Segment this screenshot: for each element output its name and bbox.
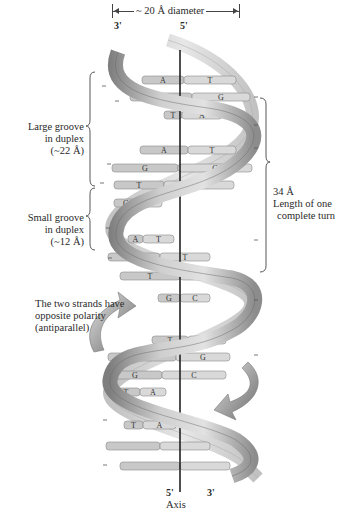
small-groove-line3: (~12 Å) (8, 236, 84, 248)
base-letter-right: T (183, 253, 188, 262)
base-letter-right: T (210, 146, 215, 155)
base-letter-left: G (166, 294, 172, 303)
polarity-note: The two strands have opposite polarity (… (35, 298, 125, 334)
polarity-note-line2: opposite polarity (35, 310, 125, 322)
base-letter-right: C (191, 371, 196, 380)
large-groove-label: Large groove in duplex (~22 Å) (8, 121, 84, 157)
base-letter-left: T (171, 111, 176, 120)
polarity-note-line1: The two strands have (35, 298, 125, 310)
base-letter-right: C (192, 294, 197, 303)
base-letter-left: A (160, 76, 166, 85)
base-letter-left: T (148, 272, 153, 281)
base-pair: AT (142, 76, 236, 85)
base-letter-left: T (131, 421, 136, 430)
strand-end-bottom-right: 3' (207, 487, 215, 499)
turn-length-brace (260, 98, 270, 272)
base-letter-right: T (208, 76, 213, 85)
base-pair: AT (140, 146, 236, 155)
arrow-right-icon (233, 8, 238, 14)
turn-length-line3: complete turn (273, 210, 335, 222)
small-groove-line2: in duplex (8, 224, 84, 236)
small-groove-label: Small groove in duplex (~12 Å) (8, 212, 84, 248)
groove-braces (86, 72, 95, 250)
base-letter-left: G (142, 164, 148, 173)
base-pair: GC (158, 294, 210, 303)
dna-helix-diagram: ATCGTAATGCTAGCATATTAGCTACGGCTATA (0, 0, 352, 529)
base-letter-left: G (132, 371, 138, 380)
arrow-left-icon (114, 8, 119, 14)
base-letter-right: A (150, 388, 156, 397)
turn-length-label: 34 Å Length of one complete turn (273, 186, 335, 222)
strand-end-top-right: 5' (180, 20, 188, 32)
axis-label: Axis (166, 499, 186, 511)
base-letter-left: T (137, 181, 142, 190)
polarity-note-line3: (antiparallel) (35, 322, 125, 334)
strand-end-bottom-left: 5' (166, 487, 174, 499)
base-letter-left: A (133, 235, 139, 244)
turn-length-line1: 34 Å (273, 186, 335, 198)
base-letter-right: T (156, 235, 161, 244)
base-letter-left: A (161, 146, 167, 155)
base-letter-right: G (218, 93, 224, 102)
strand-end-top-left: 3' (114, 20, 122, 32)
large-groove-line3: (~22 Å) (8, 145, 84, 157)
double-helix-illustration: ATCGTAATGCTAGCATATTAGCTACGGCTATA (0, 0, 352, 529)
diameter-indicator: ~ 20 Å diameter (112, 4, 240, 18)
turn-length-line2: Length of one (273, 198, 335, 210)
base-pair: AT (128, 235, 174, 244)
base-pair: GC (108, 371, 226, 380)
diameter-label: ~ 20 Å diameter (134, 4, 206, 18)
small-groove-line1: Small groove (8, 212, 84, 224)
base-pair (106, 442, 210, 450)
large-groove-line1: Large groove (8, 121, 84, 133)
base-pair (120, 462, 230, 470)
large-groove-line2: in duplex (8, 133, 84, 145)
base-letter-right: G (200, 353, 206, 362)
